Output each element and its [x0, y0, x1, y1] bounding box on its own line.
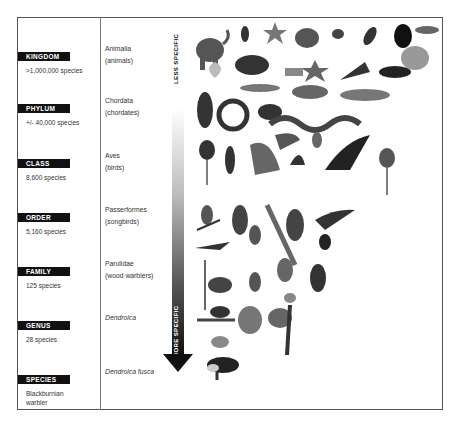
family-warblers-icon: [205, 258, 326, 310]
taxon-phylum: Chordata (chordates): [105, 95, 139, 119]
phylum-animals-icon: [197, 84, 390, 130]
taxon-genus: Dendroica: [105, 312, 136, 324]
rank-count: 125 species: [26, 282, 106, 291]
rank-count: 5,160 species: [26, 228, 106, 237]
rank-class: CLASS 8,600 species: [18, 152, 106, 183]
specificity-arrow: LESS SPECIFIC MORE SPECIFIC: [163, 22, 193, 377]
animal-illustrations: [195, 20, 440, 380]
rank-species: SPECIES Blackburnian warbler: [18, 368, 86, 407]
taxon-order: Passerformes (songbirds): [105, 204, 147, 228]
rank-genus: GENUS 28 species: [18, 314, 106, 345]
class-birds-icon: [199, 132, 395, 195]
rank-label: PHYLUM: [18, 104, 70, 113]
rank-count: >1,000,000 species: [26, 67, 106, 76]
rank-label: ORDER: [18, 213, 70, 222]
taxon-name: Dendroica: [105, 312, 136, 324]
blackburnian-warbler-icon: [207, 357, 239, 380]
taxon-common: (songbirds): [105, 216, 147, 228]
arrow-down-icon: [163, 354, 193, 372]
taxon-common: (wood warblers): [105, 270, 153, 282]
rank-count: +/- 40,000 species: [26, 119, 106, 128]
genus-warblers-icon: [197, 305, 292, 355]
rank-count: 28 species: [26, 336, 106, 345]
more-specific-label: MORE SPECIFIC: [173, 305, 179, 358]
rank-label: GENUS: [18, 321, 70, 330]
taxon-species: Dendroica fusca: [105, 366, 154, 378]
taxon-name: Aves: [105, 150, 124, 162]
taxon-name: Parulidae: [105, 258, 153, 270]
rank-family: FAMILY 125 species: [18, 260, 106, 291]
rank-kingdom: KINGDOM >1,000,000 species: [18, 45, 106, 76]
taxon-class: Aves (birds): [105, 150, 124, 174]
rank-count: 8,600 species: [26, 174, 106, 183]
taxon-common: (animals): [105, 55, 133, 67]
taxon-name: Chordata: [105, 95, 139, 107]
taxon-common: (chordates): [105, 107, 139, 119]
rank-phylum: PHYLUM +/- 40,000 species: [18, 97, 106, 128]
taxon-common: (birds): [105, 162, 124, 174]
rank-count: Blackburnian warbler: [26, 390, 86, 407]
taxon-name: Passerformes: [105, 204, 147, 216]
taxon-name: Dendroica fusca: [105, 366, 154, 378]
kingdom-animals-icon: [196, 22, 439, 82]
rank-order: ORDER 5,160 species: [18, 206, 106, 237]
taxon-family: Parulidae (wood warblers): [105, 258, 153, 282]
rank-label: SPECIES: [18, 375, 70, 384]
rank-label: FAMILY: [18, 267, 70, 276]
less-specific-label: LESS SPECIFIC: [173, 34, 179, 84]
rank-label: KINGDOM: [18, 52, 70, 61]
rank-label: CLASS: [18, 159, 70, 168]
order-songbirds-icon: [195, 205, 355, 265]
taxon-name: Animalia: [105, 43, 133, 55]
taxon-kingdom: Animalia (animals): [105, 43, 133, 67]
